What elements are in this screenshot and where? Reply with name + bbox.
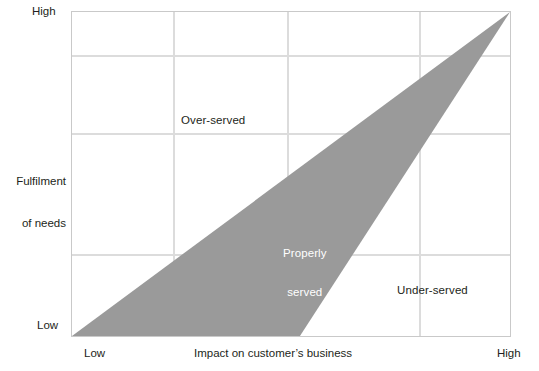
chart-container: Fulfilment of needs High Low Low High Im… <box>0 0 539 371</box>
plot-area: Over-served Properly served Under-served <box>71 11 511 337</box>
x-axis-title: Impact on customer’s business <box>194 346 352 360</box>
x-tick-low: Low <box>84 346 105 360</box>
y-axis-title-line2: of needs <box>4 216 66 230</box>
zone-label-properly-served: Properly served <box>283 221 327 325</box>
y-axis-title-line1: Fulfilment <box>4 174 66 188</box>
y-axis-title: Fulfilment of needs <box>4 146 66 258</box>
x-tick-high: High <box>497 346 521 360</box>
zone-label-under-served: Under-served <box>397 284 468 297</box>
zone-label-properly-served-line2: served <box>283 286 327 299</box>
y-tick-low: Low <box>37 318 58 332</box>
y-tick-high: High <box>32 4 56 18</box>
zone-label-over-served: Over-served <box>181 114 245 127</box>
zone-label-properly-served-line1: Properly <box>283 247 327 260</box>
